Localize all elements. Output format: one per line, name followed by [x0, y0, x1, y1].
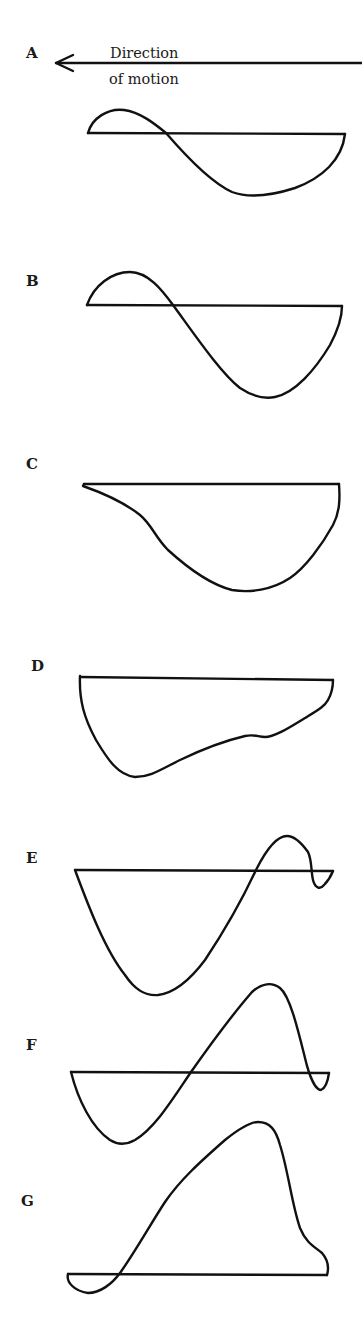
baseline-f — [71, 1072, 329, 1073]
waveform-f — [71, 984, 329, 1144]
panel-a: A Direction of motion — [25, 44, 362, 195]
panel-label-a: A — [25, 44, 38, 62]
baseline-a — [88, 133, 345, 134]
waveform-e — [75, 836, 333, 995]
waveform-figure: A Direction of motion B C D E F — [0, 0, 362, 1327]
direction-label-line2: of motion — [109, 71, 179, 87]
panel-g: G — [21, 1122, 328, 1293]
waveform-d — [80, 676, 333, 777]
direction-of-motion-arrow-icon — [56, 55, 362, 71]
panel-label-c: C — [26, 455, 38, 473]
baseline-d — [80, 677, 333, 680]
panel-b: B — [26, 272, 342, 398]
direction-label-line1: Direction — [110, 45, 178, 61]
waveform-a — [88, 110, 345, 196]
panel-label-e: E — [26, 849, 37, 867]
baseline-g — [68, 1274, 327, 1275]
waveform-b — [87, 272, 342, 398]
panel-label-g: G — [21, 1192, 34, 1210]
waveform-c — [83, 484, 339, 591]
panel-label-f: F — [26, 1036, 37, 1054]
panel-label-d: D — [31, 657, 44, 675]
panel-f: F — [26, 984, 329, 1144]
baseline-b — [87, 305, 342, 306]
panel-e: E — [26, 836, 333, 995]
panel-d: D — [31, 657, 333, 777]
baseline-e — [75, 870, 333, 871]
panel-label-b: B — [26, 272, 39, 290]
waveform-g — [68, 1122, 328, 1293]
panel-c: C — [26, 455, 339, 591]
